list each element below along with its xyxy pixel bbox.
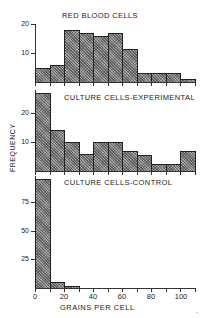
- histogram-bar: [64, 142, 80, 172]
- histogram-bar: [79, 33, 95, 83]
- y-tick-label: 20: [9, 109, 29, 116]
- x-axis: [35, 288, 195, 289]
- histogram-bar: [122, 49, 138, 83]
- histogram-bar: [137, 155, 153, 172]
- histogram-bar: [35, 68, 51, 84]
- x-axis: [35, 171, 195, 172]
- histogram-bar: [108, 33, 124, 83]
- y-tick: [31, 53, 35, 54]
- histogram-bar: [79, 154, 95, 172]
- histogram-bar: [64, 30, 80, 83]
- x-axis-title: GRAINS PER CELL: [60, 303, 135, 312]
- histogram-bar: [180, 151, 196, 172]
- x-tick-label: 20: [52, 292, 76, 301]
- panel-title: CULTURE CELLS-EXPERIMENTAL: [64, 93, 195, 102]
- histogram-bar: [93, 36, 109, 83]
- histogram-bar: [35, 93, 51, 172]
- x-tick-label: 80: [139, 292, 163, 301]
- y-tick-label: 20: [9, 20, 29, 27]
- y-tick-label: 10: [9, 49, 29, 56]
- histogram-bar: [93, 142, 109, 172]
- panel-title: CULTURE CELLS-CONTROL: [64, 178, 172, 187]
- y-tick-label: 75: [9, 198, 29, 205]
- y-axis-title: FREQUENCY: [9, 124, 16, 172]
- histogram-bar: [108, 142, 124, 172]
- histogram-bar: [50, 65, 66, 83]
- histogram-bar: [122, 151, 138, 172]
- x-tick-label: 100: [169, 292, 193, 301]
- x-tick-label: 40: [81, 292, 105, 301]
- histogram-bar: [35, 179, 51, 289]
- y-tick-label: 50: [9, 227, 29, 234]
- histogram-bar: [50, 130, 66, 172]
- y-tick: [31, 24, 35, 25]
- panel-title: RED BLOOD CELLS: [62, 11, 138, 20]
- corner-mark: “: [196, 311, 198, 317]
- x-tick-label: 0: [23, 292, 47, 301]
- x-tick-label: 60: [110, 292, 134, 301]
- x-axis: [35, 82, 195, 83]
- y-tick-label: 25: [9, 255, 29, 262]
